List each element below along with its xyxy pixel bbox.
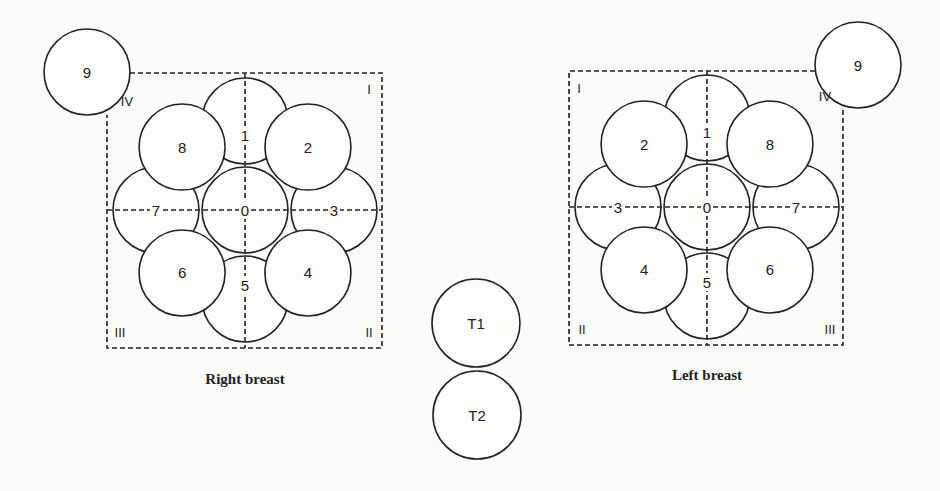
sector-label-2: 2 xyxy=(304,139,312,156)
sector-label-6: 6 xyxy=(766,261,774,278)
sector-label-3: 3 xyxy=(614,199,622,216)
right-breast-diagram: 9012345678IVIIIIII xyxy=(44,29,382,348)
sector-label-8: 8 xyxy=(766,136,774,153)
sector-label-7: 7 xyxy=(152,202,160,219)
sector-label-1: 1 xyxy=(703,124,711,141)
sector-label-6: 6 xyxy=(178,264,186,281)
quadrant-label-IV: IV xyxy=(819,89,832,104)
quadrant-label-II: II xyxy=(365,325,372,340)
sector-label-5: 5 xyxy=(241,277,249,294)
quadrant-label-IV: IV xyxy=(121,94,134,109)
sector-label-3: 3 xyxy=(330,202,338,219)
sector-label-2: 2 xyxy=(640,136,648,153)
quadrant-label-III: III xyxy=(115,325,126,340)
quadrant-label-III: III xyxy=(825,322,836,337)
sector-label-8: 8 xyxy=(178,139,186,156)
sector-label-7: 7 xyxy=(792,199,800,216)
sector-label-4: 4 xyxy=(304,264,312,281)
sector-label-0: 0 xyxy=(241,202,249,219)
sector-label-4: 4 xyxy=(640,261,648,278)
left-breast-caption: Left breast xyxy=(672,367,742,383)
sector-label-9: 9 xyxy=(854,57,862,74)
sector-label-5: 5 xyxy=(703,274,711,291)
label-t1: T1 xyxy=(467,315,485,332)
quadrant-label-I: I xyxy=(577,81,581,96)
right-breast-caption: Right breast xyxy=(205,371,284,387)
label-t2: T2 xyxy=(468,407,486,424)
quadrant-label-II: II xyxy=(578,322,585,337)
left-breast-diagram: 9012345678IIVIIIII xyxy=(569,22,901,345)
quadrant-label-I: I xyxy=(367,82,371,97)
sector-label-0: 0 xyxy=(703,199,711,216)
extra-circles: T1T2 xyxy=(432,279,521,459)
sector-label-1: 1 xyxy=(241,127,249,144)
breast-sector-diagram: 9012345678IVIIIIII 9012345678IIVIIIII T1… xyxy=(0,0,940,491)
sector-label-9: 9 xyxy=(83,64,91,81)
